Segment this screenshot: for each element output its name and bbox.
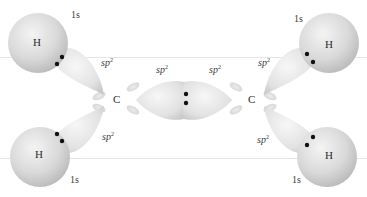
label-sp2-top-right: sp2: [258, 57, 270, 68]
label-h-bottom-right: H: [325, 150, 333, 161]
label-1s-top-right: 1s: [294, 14, 303, 24]
ethylene-orbital-diagram: H H H H C C 1s 1s 1s 1s sp2 sp2 sp2 sp2 …: [0, 0, 367, 197]
label-h-bottom-left: H: [35, 149, 43, 160]
label-carbon-right: C: [248, 94, 255, 105]
label-1s-bottom-right: 1s: [292, 175, 301, 185]
orbital-graphics: [0, 0, 367, 197]
label-1s-bottom-left: 1s: [70, 175, 79, 185]
label-1s-top-left: 1s: [71, 10, 80, 20]
label-sp2-bottom-right: sp2: [257, 134, 269, 145]
label-sp2-top-left: sp2: [101, 57, 113, 68]
label-sp2-center-right: sp2: [209, 64, 221, 75]
label-sp2-bottom-left: sp2: [102, 131, 114, 142]
label-carbon-left: C: [113, 94, 120, 105]
label-sp2-center-left: sp2: [156, 64, 168, 75]
label-h-top-right: H: [325, 39, 333, 50]
sp2-sp2-sigma-bond: [136, 81, 232, 120]
label-h-top-left: H: [33, 37, 41, 48]
